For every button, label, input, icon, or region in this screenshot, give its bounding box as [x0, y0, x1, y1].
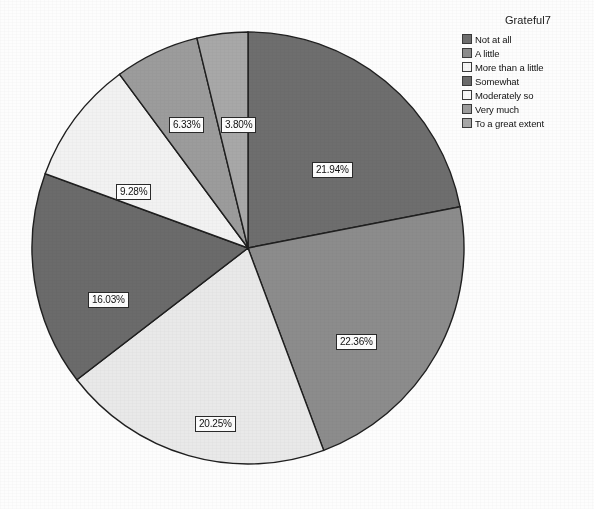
legend-color-swatch: [462, 90, 472, 100]
legend-item[interactable]: To a great extent: [462, 117, 590, 129]
legend-color-swatch: [462, 62, 472, 72]
legend-item-label: Somewhat: [475, 76, 519, 87]
legend-item[interactable]: A little: [462, 47, 590, 59]
legend-color-swatch: [462, 104, 472, 114]
legend-color-swatch: [462, 48, 472, 58]
legend-items: Not at allA littleMore than a littleSome…: [462, 33, 590, 129]
pie-chart: 21.94% 22.36% 20.25% 16.03% 9.28% 6.33% …: [28, 28, 468, 468]
slice-label-to-a-great-extent: 3.80%: [221, 117, 256, 133]
legend-color-swatch: [462, 76, 472, 86]
legend: Grateful7 Not at allA littleMore than a …: [462, 14, 590, 131]
legend-item[interactable]: Somewhat: [462, 75, 590, 87]
legend-color-swatch: [462, 34, 472, 44]
slice-label-more-than-a-little: 20.25%: [195, 416, 236, 432]
legend-item[interactable]: Moderately so: [462, 89, 590, 101]
legend-item-label: Very much: [475, 104, 519, 115]
legend-item-label: Not at all: [475, 34, 512, 45]
slice-label-a-little: 22.36%: [336, 334, 377, 350]
pie-svg: [28, 28, 468, 468]
legend-item-label: More than a little: [475, 62, 543, 73]
legend-title: Grateful7: [466, 14, 590, 26]
slice-label-moderately-so: 9.28%: [116, 184, 151, 200]
chart-canvas: 21.94% 22.36% 20.25% 16.03% 9.28% 6.33% …: [0, 0, 594, 509]
legend-item-label: Moderately so: [475, 90, 533, 101]
slice-label-very-much: 6.33%: [169, 117, 204, 133]
pie-slices: [32, 32, 464, 464]
legend-item-label: To a great extent: [475, 118, 544, 129]
slice-label-not-at-all: 21.94%: [312, 162, 353, 178]
legend-item-label: A little: [475, 48, 500, 59]
legend-color-swatch: [462, 118, 472, 128]
slice-label-somewhat: 16.03%: [88, 292, 129, 308]
legend-item[interactable]: Very much: [462, 103, 590, 115]
legend-item[interactable]: More than a little: [462, 61, 590, 73]
legend-item[interactable]: Not at all: [462, 33, 590, 45]
